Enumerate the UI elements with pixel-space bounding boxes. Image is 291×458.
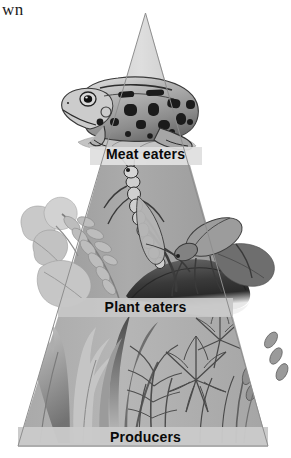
energy-pyramid-figure: wn (0, 0, 291, 458)
tier-label-meat-eaters: Meat eaters (0, 146, 291, 162)
clover-leaves-icon (21, 197, 78, 266)
tier-label-plant-eaters: Plant eaters (0, 299, 291, 315)
pyramid-graphic (0, 0, 291, 458)
frog-illustration (62, 77, 199, 153)
wheat-overhang-icon (262, 330, 291, 383)
tier-label-producers: Producers (0, 429, 291, 445)
